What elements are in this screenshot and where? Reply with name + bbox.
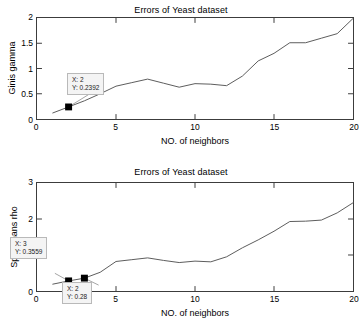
y-tick-label: 2 <box>28 214 33 223</box>
plot-svg-bottom <box>37 183 353 291</box>
datatip-top-1[interactable]: X: 2 Y: 0.2392 <box>67 73 104 95</box>
y-tick-label: 0.5 <box>21 90 33 99</box>
plot-area-top: X: 2 Y: 0.2392 <box>36 17 354 120</box>
datatip-x-value: X: 2 <box>67 285 87 293</box>
x-tick-label: 5 <box>113 294 118 304</box>
data-line-bottom <box>53 203 353 284</box>
datatip-bottom-2[interactable]: X: 2 Y: 0.28 <box>62 282 92 304</box>
x-tick-label: 0 <box>34 294 39 304</box>
x-tick-label: 15 <box>270 294 279 304</box>
x-axis-label-bottom: NO. of neighbors <box>36 308 354 319</box>
x-axis-label-top: NO. of neighbors <box>36 136 354 147</box>
x-tick-label: 5 <box>113 122 118 132</box>
y-tick-label: 3 <box>28 178 33 187</box>
y-tick-label: 2 <box>28 13 33 22</box>
plot-svg-top <box>37 18 353 119</box>
chart-title-bottom: Errors of Yeast dataset <box>0 167 362 178</box>
x-tick-labels-top: 0 5 10 15 20 <box>36 122 354 136</box>
x-tick-label: 15 <box>270 122 279 132</box>
y-tick-label: 1.5 <box>21 38 33 47</box>
datatip-y-value: Y: 0.2392 <box>72 84 99 92</box>
y-tick-label: 1 <box>28 64 33 73</box>
y-tick-label: 0 <box>28 288 33 297</box>
datatip-bottom-1[interactable]: X: 3 Y: 0.3559 <box>10 237 47 259</box>
data-marker-bottom-2[interactable] <box>81 275 88 282</box>
tick-marks-top <box>37 18 353 119</box>
x-tick-label: 20 <box>349 122 358 132</box>
datatip-x-value: X: 3 <box>15 240 42 248</box>
chart-title-top: Errors of Yeast dataset <box>0 5 362 16</box>
chart-panel-ginis-gamma: Errors of Yeast dataset Ginis gamma 0 0.… <box>0 0 362 164</box>
datatip-y-value: Y: 0.28 <box>67 293 87 301</box>
x-tick-label: 20 <box>349 294 358 304</box>
data-marker-top[interactable] <box>65 104 72 111</box>
datatip-x-value: X: 2 <box>72 76 99 84</box>
x-tick-label: 0 <box>34 122 39 132</box>
chart-panel-spearmans-rho: Errors of Yeast dataset Spearmans rho 0 … <box>0 164 362 328</box>
x-tick-label: 10 <box>190 122 199 132</box>
y-tick-labels-top: 0 0.5 1 1.5 2 <box>0 17 33 120</box>
plot-area-bottom: X: 3 Y: 0.3559 X: 2 Y: 0.28 <box>36 182 354 292</box>
data-line-top <box>53 18 353 112</box>
x-tick-label: 10 <box>190 294 199 304</box>
figure-canvas: Errors of Yeast dataset Ginis gamma 0 0.… <box>0 0 362 328</box>
y-tick-label: 0 <box>28 116 33 125</box>
datatip-y-value: Y: 0.3559 <box>15 248 42 256</box>
